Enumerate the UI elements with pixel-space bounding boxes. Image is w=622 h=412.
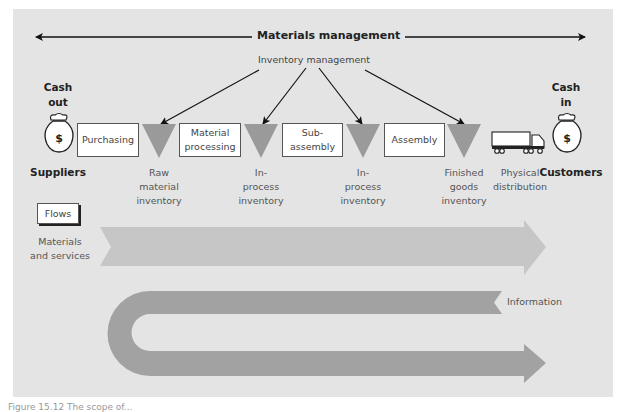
raw-material-inventory-label: Raw material inventory <box>129 166 189 208</box>
figure-caption: Figure 15.12 The scope of... <box>8 402 132 412</box>
cash-out-label: Cash out <box>38 80 78 110</box>
inventory-management-arrows <box>161 68 464 124</box>
sub-assembly-box: Sub- assembly <box>282 123 343 157</box>
purchasing-box: Purchasing <box>77 123 139 157</box>
in-process-inventory-label-2: In- process inventory <box>333 166 393 208</box>
suppliers-label: Suppliers <box>28 165 88 180</box>
truck-icon <box>492 132 544 153</box>
raw-material-inventory-triangle <box>142 124 176 158</box>
in-process-inventory-label-1: In- process inventory <box>231 166 291 208</box>
physical-distribution-label: Physical distribution <box>490 166 550 194</box>
in-process-inventory-triangle-1 <box>244 124 278 158</box>
information-label: Information <box>507 295 562 309</box>
cash-in-label: Cash in <box>546 80 586 110</box>
in-process-inventory-triangle-2 <box>346 124 380 158</box>
finished-goods-inventory-label: Finished goods inventory <box>434 166 494 208</box>
finished-goods-inventory-triangle <box>447 124 481 158</box>
materials-flow-arrow <box>100 220 546 275</box>
assembly-box: Assembly <box>384 123 445 157</box>
information-flow-arrow <box>108 291 547 383</box>
material-processing-box: Material processing <box>179 123 241 157</box>
materials-management-title: Materials management <box>252 29 405 42</box>
svg-text:$: $ <box>55 132 63 145</box>
svg-text:$: $ <box>563 132 571 145</box>
inventory-management-label: Inventory management <box>258 54 370 65</box>
materials-and-services-label: Materials and services <box>28 235 92 263</box>
money-bag-icon: $ <box>45 114 73 153</box>
money-bag-icon: $ <box>553 114 581 153</box>
flows-heading-box: Flows <box>37 203 79 224</box>
